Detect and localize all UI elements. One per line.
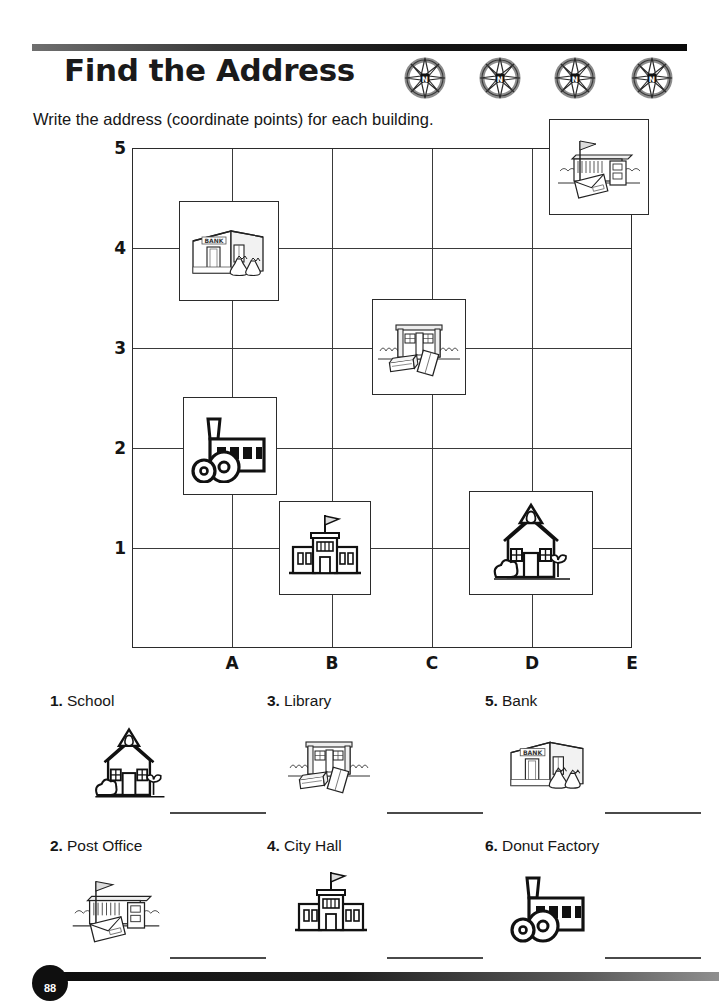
question-number: 1. bbox=[50, 692, 63, 709]
grid-marker-library[interactable] bbox=[372, 299, 466, 395]
question-heading: 5.Bank bbox=[485, 692, 715, 716]
y-axis-tick-5: 5 bbox=[100, 138, 126, 158]
x-axis-tick-e: E bbox=[619, 653, 645, 673]
coordinate-grid-area: 5 4 3 2 1 A B C D E BANK bbox=[0, 0, 719, 680]
question-label: Post Office bbox=[67, 837, 143, 854]
page-number-badge: 88 bbox=[32, 965, 68, 1001]
question-item-1: 1.School bbox=[50, 692, 280, 716]
question-label: City Hall bbox=[284, 837, 342, 854]
svg-text:BANK: BANK bbox=[205, 237, 224, 244]
question-item-4: 4.City Hall bbox=[267, 837, 497, 861]
bank-icon: BANK bbox=[185, 215, 273, 287]
x-axis-tick-c: C bbox=[419, 653, 445, 673]
answer-blank-5[interactable] bbox=[605, 812, 701, 814]
question-number: 5. bbox=[485, 692, 498, 709]
question-item-6: 6.Donut Factory bbox=[485, 837, 715, 861]
question-number: 6. bbox=[485, 837, 498, 854]
question-item-3: 3.Library bbox=[267, 692, 497, 716]
y-axis-tick-4: 4 bbox=[100, 238, 126, 258]
question-heading: 2.Post Office bbox=[50, 837, 280, 861]
school-icon bbox=[76, 724, 186, 796]
page-number: 88 bbox=[32, 982, 68, 994]
post-office-icon bbox=[554, 131, 644, 203]
question-heading: 1.School bbox=[50, 692, 280, 716]
question-label: School bbox=[67, 692, 114, 709]
question-heading: 4.City Hall bbox=[267, 837, 497, 861]
question-label: Bank bbox=[502, 692, 537, 709]
question-heading: 6.Donut Factory bbox=[485, 837, 715, 861]
city-hall-icon bbox=[283, 513, 367, 583]
question-heading: 3.Library bbox=[267, 692, 497, 716]
y-axis-tick-3: 3 bbox=[100, 338, 126, 358]
answer-blank-4[interactable] bbox=[387, 957, 483, 959]
question-label: Donut Factory bbox=[502, 837, 599, 854]
grid-marker-donut-factory[interactable] bbox=[183, 397, 277, 495]
question-item-2: 2.Post Office bbox=[50, 837, 280, 861]
question-number: 3. bbox=[267, 692, 280, 709]
city-hall-icon bbox=[289, 869, 399, 941]
questions-row: 1.School bbox=[0, 692, 719, 837]
answer-blank-1[interactable] bbox=[170, 812, 266, 814]
questions-section: 1.School bbox=[0, 692, 719, 982]
y-axis-tick-1: 1 bbox=[100, 538, 126, 558]
questions-row: 2.Post Office bbox=[0, 837, 719, 982]
grid-marker-city-hall[interactable] bbox=[279, 501, 371, 595]
answer-blank-6[interactable] bbox=[605, 957, 701, 959]
grid-marker-bank[interactable]: BANK bbox=[179, 201, 279, 301]
question-label: Library bbox=[284, 692, 331, 709]
question-number: 4. bbox=[267, 837, 280, 854]
library-icon bbox=[281, 728, 391, 800]
x-axis-tick-d: D bbox=[519, 653, 545, 673]
question-item-5: 5.Bank BANK bbox=[485, 692, 715, 716]
grid-line-vertical bbox=[432, 149, 433, 647]
answer-blank-2[interactable] bbox=[170, 957, 266, 959]
factory-icon bbox=[507, 867, 617, 939]
y-axis-tick-2: 2 bbox=[100, 438, 126, 458]
bank-icon: BANK bbox=[499, 726, 609, 798]
post-office-icon bbox=[64, 871, 174, 943]
footer-rule bbox=[38, 972, 719, 981]
grid-marker-school[interactable] bbox=[469, 491, 593, 595]
x-axis-tick-b: B bbox=[319, 653, 345, 673]
svg-text:BANK: BANK bbox=[523, 749, 543, 756]
school-icon bbox=[478, 499, 584, 587]
library-icon bbox=[376, 311, 462, 383]
factory-icon bbox=[188, 409, 272, 483]
question-number: 2. bbox=[50, 837, 63, 854]
grid-marker-post-office[interactable] bbox=[549, 119, 649, 215]
x-axis-tick-a: A bbox=[219, 653, 245, 673]
answer-blank-3[interactable] bbox=[387, 812, 483, 814]
